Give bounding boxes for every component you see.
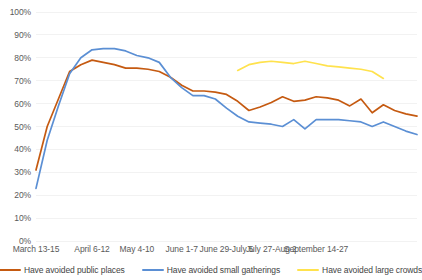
- y-axis-tick-label: 20%: [14, 191, 31, 200]
- legend-label: Have avoided large crowds: [322, 265, 422, 275]
- legend-label: Have avoided public places: [24, 265, 125, 275]
- series-lines: [36, 12, 417, 241]
- legend-item[interactable]: Have avoided large crowds: [297, 265, 422, 275]
- y-axis-tick-label: 40%: [14, 145, 31, 154]
- y-axis-tick-label: 80%: [14, 53, 31, 62]
- x-axis-tick-label: September 14-27: [284, 244, 348, 255]
- legend-color-swatch: [297, 269, 319, 271]
- series-line-2: [238, 61, 384, 78]
- legend-item[interactable]: Have avoided public places: [0, 265, 125, 275]
- x-axis-tick-label: March 13-15: [13, 244, 60, 255]
- x-axis-tick-label: May 4-10: [120, 244, 155, 255]
- x-axis-tick-label: April 6-12: [74, 244, 109, 255]
- legend-label: Have avoided small gatherings: [167, 265, 280, 275]
- plot-area: [36, 12, 417, 241]
- chart-legend: Have avoided public placesHave avoided s…: [0, 262, 421, 278]
- legend-item[interactable]: Have avoided small gatherings: [142, 265, 280, 275]
- legend-color-swatch: [142, 269, 164, 271]
- y-axis-tick-label: 50%: [14, 122, 31, 131]
- series-line-0: [36, 60, 417, 170]
- y-axis-tick-label: 90%: [14, 30, 31, 39]
- x-axis-tick-label: June 1-7: [166, 244, 198, 255]
- y-axis-tick-label: 30%: [14, 168, 31, 177]
- y-axis-tick-label: 70%: [14, 76, 31, 85]
- y-axis-tick-label: 100%: [10, 8, 31, 17]
- y-axis: 0%10%20%30%40%50%60%70%80%90%100%: [0, 0, 34, 241]
- y-axis-tick-label: 60%: [14, 99, 31, 108]
- y-axis-tick-label: 10%: [14, 214, 31, 223]
- x-axis: March 13-15April 6-12May 4-10June 1-7Jun…: [36, 244, 417, 258]
- legend-color-swatch: [0, 269, 21, 271]
